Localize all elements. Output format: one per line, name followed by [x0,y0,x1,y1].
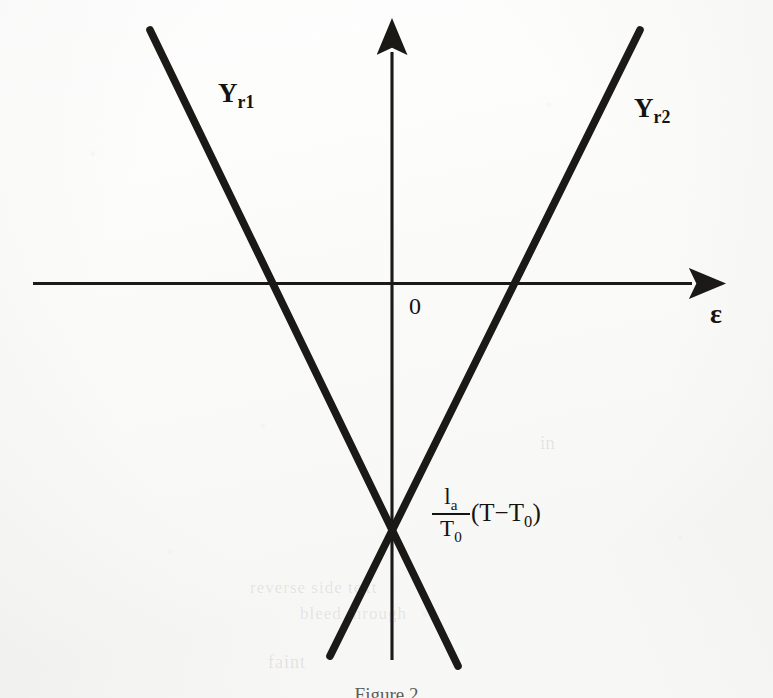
fraction-denominator: T0 [435,515,467,544]
expression-tail-open: (T−T [471,499,524,526]
curve-label-yr1: Yr1 [218,80,255,112]
fraction-numerator: la [439,485,462,513]
fraction-numerator-subscript: a [451,496,458,513]
curve-yr1 [150,30,458,666]
origin-label: 0 [409,294,421,318]
fraction-denominator-base: T [440,516,454,541]
expression-tail: (T−T0) [471,498,541,531]
x-axis-label-epsilon: ε [710,300,722,328]
curve-yr2 [330,30,640,656]
fraction-denominator-subscript: 0 [454,527,462,544]
fraction: la T0 [432,485,470,544]
curve-label-yr2: Yr2 [634,95,671,127]
intersection-expression: la T0 (T−T0) [432,485,541,544]
figure-container: in reverse side text bleed through faint… [0,0,773,698]
curve-label-yr1-base: Y [218,78,238,108]
curve-label-yr1-subscript: r1 [238,92,255,112]
curve-label-yr2-base: Y [634,93,654,123]
curve-label-yr2-subscript: r2 [654,107,671,127]
figure-caption: Figure 2 [0,684,773,698]
expression-tail-close: ) [532,499,540,526]
